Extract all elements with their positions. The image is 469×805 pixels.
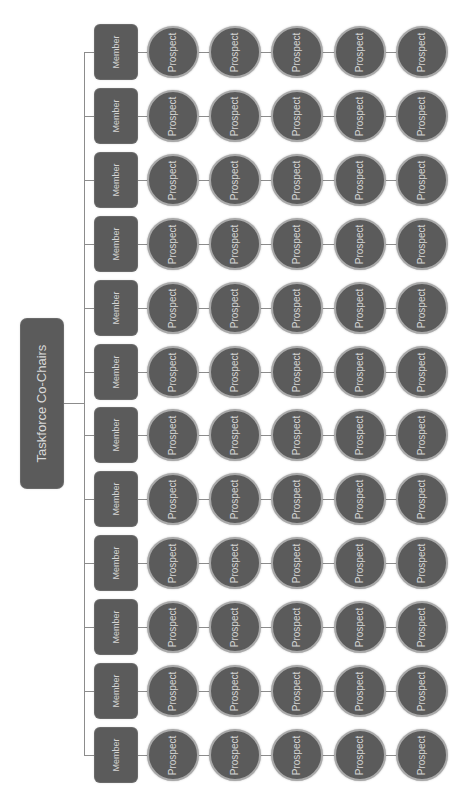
member-node: Member <box>95 664 137 718</box>
prospect-node: Prospect <box>334 409 386 461</box>
member-node-label: Member <box>111 546 121 579</box>
prospect-node-label: Prospect <box>292 671 303 710</box>
branch-connector <box>84 563 95 564</box>
prospect-node: Prospect <box>147 90 199 142</box>
prospect-node: Prospect <box>147 729 199 781</box>
prospect-node: Prospect <box>271 282 323 334</box>
prospect-node: Prospect <box>147 537 199 589</box>
prospect-node-label: Prospect <box>355 415 366 454</box>
prospect-node: Prospect <box>209 537 261 589</box>
prospect-node: Prospect <box>396 473 448 525</box>
prospect-node: Prospect <box>271 473 323 525</box>
root-connector <box>63 403 84 404</box>
prospect-node-label: Prospect <box>168 288 179 327</box>
prospect-node: Prospect <box>209 473 261 525</box>
member-node-label: Member <box>111 418 121 451</box>
member-node: Member <box>95 217 137 271</box>
prospect-node-label: Prospect <box>230 479 241 518</box>
prospect-node: Prospect <box>334 665 386 717</box>
prospect-node: Prospect <box>334 537 386 589</box>
member-node-label: Member <box>111 674 121 707</box>
root-node-taskforce-co-chairs: Taskforce Co-Chairs <box>21 319 63 488</box>
prospect-node: Prospect <box>396 601 448 653</box>
member-node: Member <box>95 281 137 335</box>
prospect-node: Prospect <box>209 282 261 334</box>
prospect-node: Prospect <box>271 409 323 461</box>
prospect-node-label: Prospect <box>292 415 303 454</box>
prospect-node: Prospect <box>334 601 386 653</box>
prospect-node: Prospect <box>334 90 386 142</box>
prospect-node-label: Prospect <box>168 96 179 135</box>
prospect-node: Prospect <box>271 26 323 78</box>
prospect-node: Prospect <box>271 154 323 206</box>
member-node-label: Member <box>111 291 121 324</box>
member-node-label: Member <box>111 163 121 196</box>
prospect-node-label: Prospect <box>417 607 428 646</box>
prospect-node: Prospect <box>147 601 199 653</box>
prospect-node-label: Prospect <box>417 415 428 454</box>
prospect-node-label: Prospect <box>168 671 179 710</box>
prospect-node-label: Prospect <box>355 32 366 71</box>
member-node-label: Member <box>111 738 121 771</box>
prospect-node-label: Prospect <box>168 224 179 263</box>
prospect-node-label: Prospect <box>230 160 241 199</box>
member-node: Member <box>95 600 137 654</box>
prospect-node: Prospect <box>271 346 323 398</box>
prospect-node: Prospect <box>334 473 386 525</box>
prospect-node-label: Prospect <box>292 352 303 391</box>
branch-connector <box>84 244 95 245</box>
prospect-node-label: Prospect <box>168 607 179 646</box>
member-node-label: Member <box>111 35 121 68</box>
prospect-node-label: Prospect <box>417 671 428 710</box>
prospect-node-label: Prospect <box>230 352 241 391</box>
prospect-node: Prospect <box>209 729 261 781</box>
prospect-node: Prospect <box>396 537 448 589</box>
prospect-node-label: Prospect <box>417 479 428 518</box>
prospect-node-label: Prospect <box>417 160 428 199</box>
branch-connector <box>84 116 95 117</box>
prospect-node-label: Prospect <box>230 671 241 710</box>
prospect-node: Prospect <box>396 665 448 717</box>
prospect-node: Prospect <box>334 154 386 206</box>
prospect-node-label: Prospect <box>355 479 366 518</box>
prospect-node: Prospect <box>271 537 323 589</box>
prospect-node-label: Prospect <box>417 735 428 774</box>
prospect-node-label: Prospect <box>292 224 303 263</box>
prospect-node-label: Prospect <box>292 543 303 582</box>
prospect-node: Prospect <box>396 26 448 78</box>
member-node: Member <box>95 408 137 462</box>
prospect-node: Prospect <box>209 346 261 398</box>
prospect-node: Prospect <box>271 218 323 270</box>
member-node: Member <box>95 472 137 526</box>
prospect-node: Prospect <box>147 282 199 334</box>
member-node: Member <box>95 345 137 399</box>
prospect-node-label: Prospect <box>417 224 428 263</box>
member-node-label: Member <box>111 99 121 132</box>
prospect-node: Prospect <box>147 218 199 270</box>
member-node-label: Member <box>111 610 121 643</box>
prospect-node: Prospect <box>209 409 261 461</box>
prospect-node: Prospect <box>334 346 386 398</box>
prospect-node-label: Prospect <box>168 415 179 454</box>
trunk-line <box>84 52 85 756</box>
prospect-node-label: Prospect <box>292 288 303 327</box>
prospect-node-label: Prospect <box>417 96 428 135</box>
prospect-node-label: Prospect <box>230 288 241 327</box>
member-node-label: Member <box>111 482 121 515</box>
prospect-node-label: Prospect <box>168 352 179 391</box>
member-node-label: Member <box>111 227 121 260</box>
prospect-node-label: Prospect <box>292 160 303 199</box>
prospect-node: Prospect <box>271 601 323 653</box>
prospect-node-label: Prospect <box>168 160 179 199</box>
prospect-node-label: Prospect <box>355 671 366 710</box>
prospect-node-label: Prospect <box>355 607 366 646</box>
branch-connector <box>84 308 95 309</box>
prospect-node: Prospect <box>271 665 323 717</box>
prospect-node-label: Prospect <box>292 735 303 774</box>
prospect-node-label: Prospect <box>230 415 241 454</box>
prospect-node: Prospect <box>209 665 261 717</box>
prospect-node-label: Prospect <box>417 32 428 71</box>
prospect-node: Prospect <box>209 90 261 142</box>
prospect-node-label: Prospect <box>230 224 241 263</box>
prospect-node: Prospect <box>271 90 323 142</box>
